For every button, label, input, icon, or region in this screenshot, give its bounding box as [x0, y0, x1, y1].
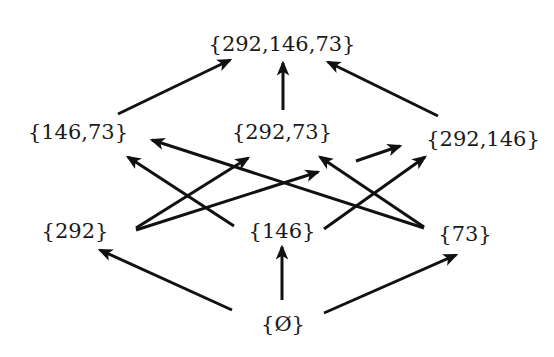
edge-arrow	[324, 255, 456, 313]
edge-arrow	[100, 250, 232, 310]
node-n292: {292}	[42, 219, 109, 243]
edge-arrow	[118, 60, 230, 114]
node-n73: {73}	[438, 222, 491, 246]
edges-group	[100, 60, 456, 313]
node-top: {292,146,73}	[209, 32, 356, 56]
node-n292_73: {292,73}	[232, 120, 332, 144]
node-n146_73: {146,73}	[28, 120, 128, 144]
node-empty: {Ø}	[261, 312, 305, 336]
edge-arrow	[328, 62, 438, 116]
node-n146: {146}	[249, 219, 316, 243]
edge-arrow	[136, 158, 248, 228]
node-n292_146: {292,146}	[426, 127, 540, 151]
hasse-diagram: {292,146,73}{146,73}{292,73}{292,146}{29…	[0, 0, 554, 357]
edge-arrow	[356, 146, 400, 161]
